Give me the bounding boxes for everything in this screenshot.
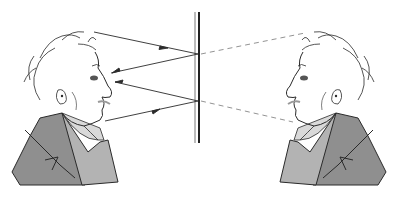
diagram-canvas xyxy=(0,0,398,199)
reflected-ray-to-eye-1 xyxy=(111,54,198,73)
reflected-ray-to-eye-2 xyxy=(115,82,198,101)
incident-ray-from-chin xyxy=(105,101,198,121)
real-person-figure xyxy=(12,32,118,185)
arrow-head-icon xyxy=(115,80,123,83)
arrow-head-icon xyxy=(112,68,120,73)
incident-ray-from-head-top xyxy=(94,32,198,54)
light-rays xyxy=(94,32,198,121)
arrow-head-icon xyxy=(159,46,168,50)
mirror-reflection-diagram xyxy=(0,0,398,199)
plane-mirror xyxy=(195,12,199,143)
virtual-rays xyxy=(201,33,305,122)
mirror-image-person-figure xyxy=(280,32,386,185)
arrow-head-icon xyxy=(152,109,160,114)
